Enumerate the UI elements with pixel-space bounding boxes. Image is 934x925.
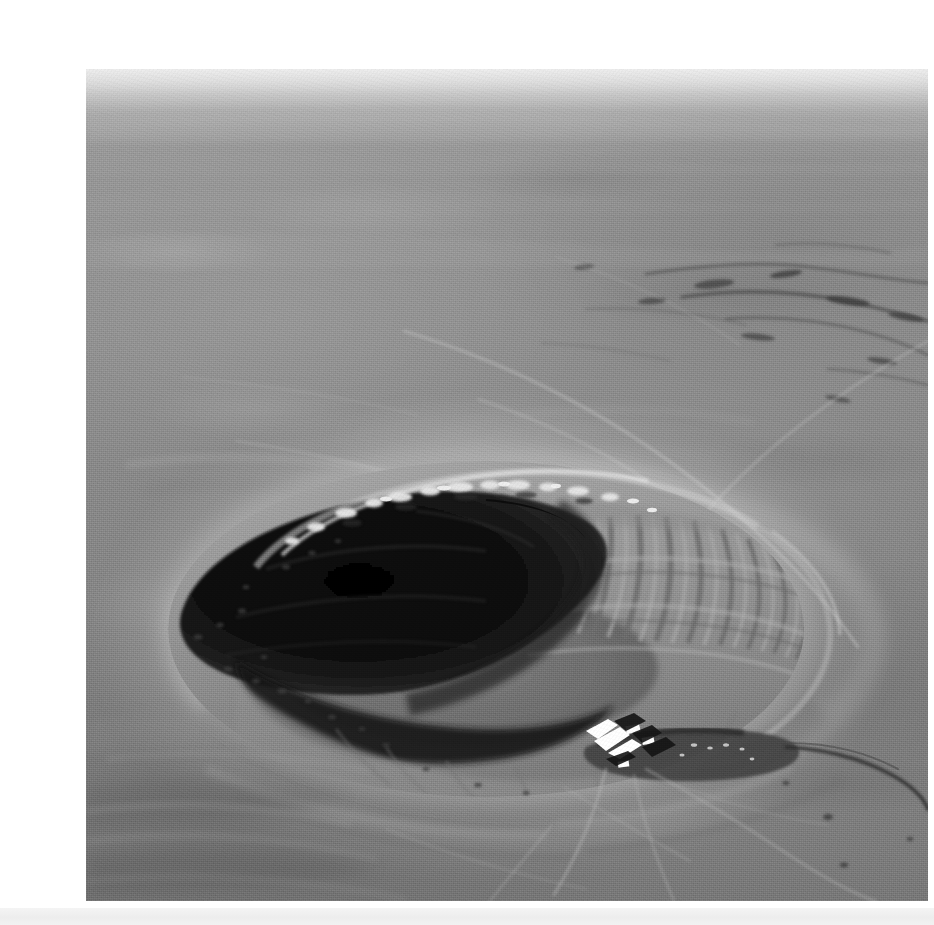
plain-tone-layer — [86, 69, 928, 901]
drainage-channel-darks — [574, 263, 925, 404]
east-rim-crest — [758, 527, 840, 737]
crater-rim-highlight — [256, 471, 758, 567]
ejecta-blanket — [90, 395, 890, 875]
visitor-center-buildings — [586, 719, 655, 768]
film-grain-layer — [86, 69, 928, 901]
plain-ridges — [126, 409, 800, 507]
crater-rim-ring — [146, 437, 826, 817]
dirt-tracks-plain — [182, 257, 928, 647]
south-outer-slope-texture — [206, 767, 842, 857]
southeast-dark-spots — [783, 781, 914, 867]
inner-wall-gullies — [528, 515, 826, 675]
terrain-detail-layer — [86, 69, 928, 901]
visitor-center-building-shadows — [606, 713, 676, 766]
aerial-crater-photograph — [86, 69, 928, 901]
foreground-streaks — [86, 754, 406, 899]
south-slope-striations — [336, 713, 736, 803]
shadow-relief — [226, 511, 534, 655]
foreground-texture — [86, 715, 376, 897]
north-inner-wall — [336, 500, 830, 609]
bottom-page-strip — [0, 908, 934, 925]
desert-plain-base — [86, 69, 928, 901]
drainage-channels — [542, 243, 928, 385]
outer-rim-slopes — [176, 470, 874, 809]
horizon-haze-layer — [86, 69, 928, 901]
halftone-noise-layer — [86, 69, 928, 901]
visitor-center — [584, 713, 799, 781]
plain-mottle-layer — [86, 69, 928, 901]
parking-lot — [584, 729, 799, 782]
crater-shadow — [180, 491, 614, 764]
access-road — [386, 743, 928, 901]
crater-floor — [278, 593, 658, 745]
far-plain-texture — [86, 112, 928, 269]
ejecta-boulders — [194, 539, 530, 795]
south-inner-slope — [236, 681, 804, 799]
crater-bowl — [168, 461, 830, 803]
page-canvas — [0, 0, 934, 925]
